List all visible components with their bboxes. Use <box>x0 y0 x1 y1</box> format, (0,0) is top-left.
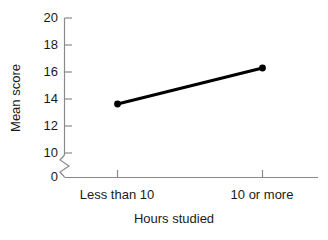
x-category-label-1: Less than 10 <box>57 187 177 202</box>
data-line-mean-score <box>118 68 263 104</box>
x-category-label-2: 10 or more <box>207 187 317 202</box>
y-tick-label-20: 20 <box>28 10 58 25</box>
y-axis-break-icon <box>60 155 69 177</box>
y-tick-label-14: 14 <box>28 91 58 106</box>
y-tick-label-16: 16 <box>28 64 58 79</box>
y-tick-label-12: 12 <box>28 118 58 133</box>
data-point-10-or-more <box>259 65 266 72</box>
y-tick-label-18: 18 <box>28 37 58 52</box>
y-tick-label-0: 0 <box>28 169 58 184</box>
y-tick-label-10: 10 <box>28 145 58 160</box>
line-chart-figure: Mean score 20 18 16 14 12 10 0 Less than… <box>0 0 328 240</box>
data-point-less-than-10 <box>114 101 121 108</box>
x-axis-title: Hours studied <box>84 211 264 226</box>
y-axis-title: Mean score <box>8 64 23 132</box>
